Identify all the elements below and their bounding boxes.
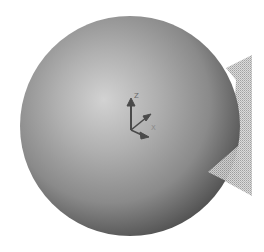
x-axis-label: X (151, 124, 156, 132)
3d-viewport[interactable]: Z X (0, 0, 264, 252)
scene-canvas[interactable]: Z X (0, 0, 264, 252)
z-axis-label: Z (134, 92, 139, 100)
